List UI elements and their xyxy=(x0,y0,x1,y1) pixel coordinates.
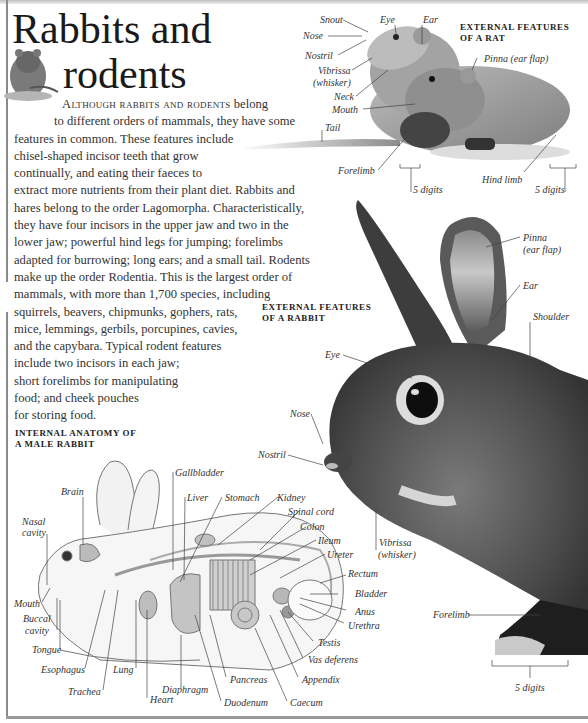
rat-label-whisker: (whisker) xyxy=(313,77,351,88)
anatomy-label-brain: Brain xyxy=(61,486,84,497)
anatomy-label-ileum: Ileum xyxy=(318,535,341,546)
anatomy-label-duodenum: Duodenum xyxy=(224,697,268,708)
rat-label-tail: Tail xyxy=(325,122,340,133)
anatomy-label-liver: Liver xyxy=(187,492,208,503)
anatomy-label-stomach: Stomach xyxy=(225,492,259,503)
rat-label-forelimb: Forelimb xyxy=(338,165,375,176)
anatomy-label-rectum: Rectum xyxy=(348,568,378,579)
rabbit-label-vibrissa: Vibrissa xyxy=(379,537,412,548)
anatomy-heading: INTERNAL ANATOMY OF A MALE RABBIT xyxy=(15,428,136,450)
rabbit-heading: EXTERNAL FEATURES OF A RABBIT xyxy=(262,302,371,324)
anatomy-label-lung: Lung xyxy=(113,664,134,675)
anatomy-label-nasal-cavity: cavity xyxy=(22,527,46,538)
anatomy-label-bladder: Bladder xyxy=(355,588,387,599)
anatomy-label-nasal: Nasal xyxy=(22,516,45,527)
anatomy-label-diaphragm: Diaphragm xyxy=(162,684,208,695)
rabbit-label-ear: Ear xyxy=(523,280,538,291)
anatomy-label-vas-deferens: Vas deferens xyxy=(308,654,358,665)
anatomy-label-caecum: Caecum xyxy=(290,697,323,708)
rat-label-nostril: Nostril xyxy=(305,50,333,61)
rat-label-pinna: Pinna (ear flap) xyxy=(484,53,548,64)
anatomy-label-colon: Colon xyxy=(300,521,324,532)
rabbit-label-nostril: Nostril xyxy=(258,449,286,460)
rat-label-digits-hind: 5 digits xyxy=(535,184,565,195)
rabbit-label-ear-flap: (ear flap) xyxy=(523,244,561,255)
anatomy-label-buccal: Buccal xyxy=(23,613,51,624)
rabbit-label-shoulder: Shoulder xyxy=(533,311,569,322)
rat-label-digits-front: 5 digits xyxy=(413,184,443,195)
anatomy-label-mouth: Mouth xyxy=(14,598,40,609)
anatomy-label-tongue: Tongue xyxy=(32,644,61,655)
anatomy-label-anus: Anus xyxy=(355,606,375,617)
title-rat-icon xyxy=(4,49,58,101)
rabbit-photo xyxy=(324,200,588,655)
rat-label-mouth: Mouth xyxy=(332,104,358,115)
anatomy-label-kidney: Kidney xyxy=(277,492,305,503)
anatomy-label-urethra: Urethra xyxy=(348,620,380,631)
rabbit-label-eye: Eye xyxy=(325,349,340,360)
rat-label-neck: Neck xyxy=(334,91,354,102)
rat-label-nose: Nose xyxy=(303,30,323,41)
page-title-line-1: Rabbits and xyxy=(12,8,211,50)
anatomy-label-buccal-cavity: cavity xyxy=(25,625,49,636)
anatomy-label-appendix: Appendix xyxy=(302,674,340,685)
rat-label-ear: Ear xyxy=(423,14,438,25)
intro-paragraph: Although rabbits and rodents belong to d… xyxy=(14,96,310,425)
anatomy-label-heart: Heart xyxy=(150,694,173,705)
intro-lead: Although rabbits and rodents xyxy=(62,97,231,111)
rabbit-label-pinna: Pinna xyxy=(523,232,547,243)
anatomy-label-testis: Testis xyxy=(318,637,340,648)
rat-label-vibrissa: Vibrissa xyxy=(318,65,351,76)
anatomy-label-gallbladder: Gallbladder xyxy=(175,467,224,478)
rat-label-eye: Eye xyxy=(380,14,395,25)
rabbit-label-nose: Nose xyxy=(290,408,310,419)
rat-label-hind-limb: Hind limb xyxy=(482,174,522,185)
anatomy-label-pancreas: Pancreas xyxy=(230,674,267,685)
rabbit-label-whisker: (whisker) xyxy=(378,549,416,560)
rabbit-label-digits: 5 digits xyxy=(515,682,545,693)
rabbit-label-forelimb: Forelimb xyxy=(433,609,470,620)
anatomy-label-ureter: Ureter xyxy=(327,549,353,560)
anatomy-label-trachea: Trachea xyxy=(68,686,101,697)
anatomy-label-esophagus: Esophagus xyxy=(41,664,85,675)
rat-label-snout: Snout xyxy=(320,14,343,25)
anatomy-label-spinal-cord: Spinal cord xyxy=(288,506,334,517)
rat-heading: EXTERNAL FEATURES OF A RAT xyxy=(460,22,569,44)
page-title-line-2: rodents xyxy=(63,53,187,95)
